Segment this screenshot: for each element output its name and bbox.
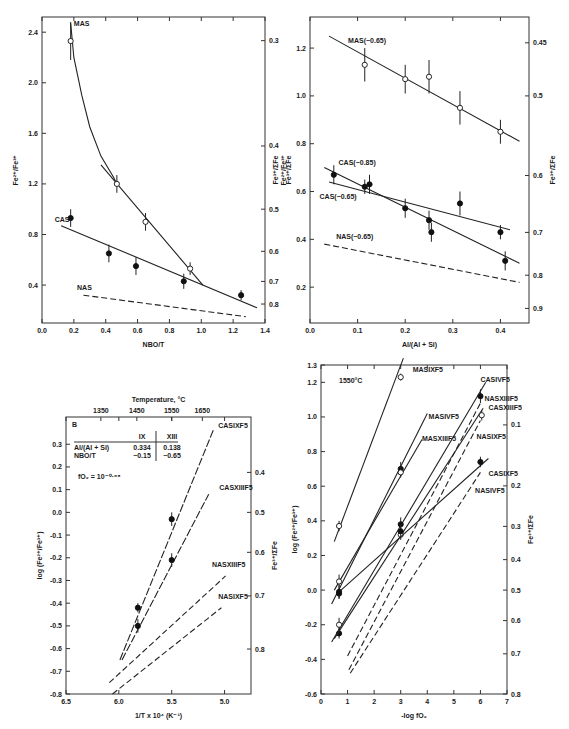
x-tick-label: 3	[399, 698, 403, 705]
data-point	[143, 219, 148, 224]
x-tick-label: 5.0	[220, 698, 230, 705]
series-label: NASIVF5	[475, 487, 505, 494]
x-tick-label: 5.5	[167, 698, 177, 705]
plot-frame	[310, 17, 529, 323]
panel-b: 0.00.10.20.30.40.20.40.60.81.01.20.450.5…	[272, 17, 556, 349]
x-tick-label: 1	[346, 698, 350, 705]
y-axis-label: Fe²⁺/Fe³⁺	[12, 155, 19, 186]
data-point	[336, 589, 341, 594]
data-point	[498, 129, 503, 134]
y-right-tick-label: 0.4	[511, 556, 521, 563]
series-label: CASIXF5	[488, 470, 518, 477]
annotation: 1550°C	[339, 377, 362, 384]
panel-d: 01234567-0.6-0.4-0.20.00.20.40.60.81.01.…	[291, 358, 534, 720]
data-point	[479, 413, 484, 418]
series-label: NASIXF5	[476, 433, 506, 440]
y-right-tick-label: 0.4	[255, 469, 265, 476]
data-point	[336, 622, 341, 627]
top-tick-label: 1350	[93, 407, 109, 414]
y-right-tick-label: 0.7	[511, 650, 521, 657]
x-tick-label: 1.0	[196, 327, 206, 334]
y-right-tick-label: 0.8	[255, 646, 265, 653]
x-axis-label: Al/(Al + Si)	[402, 341, 437, 349]
y-tick-label: 0.4	[28, 282, 38, 289]
y-tick-label: 1.2	[296, 45, 306, 52]
data-point	[68, 38, 73, 43]
series-label: CASIXF5	[218, 422, 248, 429]
y-tick-label: 0.2	[52, 463, 62, 470]
series-casxiiif5: CASXIIIF5	[122, 484, 253, 660]
inset-table-cell: Al/(Al + Si)	[74, 444, 109, 452]
data-point	[403, 206, 408, 211]
y-tick-label: 0.0	[307, 587, 317, 594]
x-tick-label: 0.2	[400, 327, 410, 334]
y-right-tick-label: 0.8	[269, 301, 279, 308]
data-point	[135, 623, 140, 628]
y-tick-label: -0.6	[50, 645, 62, 652]
y-right-axis-label: Fe³⁺/ΣFe	[527, 515, 534, 544]
data-point	[503, 258, 508, 263]
y-tick-label: 0.4	[296, 236, 306, 243]
data-point	[362, 62, 367, 67]
series-label: MAS(~0.65)	[348, 37, 386, 45]
x-tick-label: 0.2	[69, 327, 79, 334]
x-tick-label: 6.5	[61, 698, 71, 705]
data-point	[114, 181, 119, 186]
panel-letter: B	[72, 421, 77, 428]
x-tick-label: 0.0	[37, 327, 47, 334]
y-tick-label: 1.0	[296, 92, 306, 99]
y-right-tick-label: 0.8	[533, 272, 543, 279]
y-right-tick-label: 0.5	[511, 587, 521, 594]
data-point	[336, 523, 341, 528]
top-tick-label: 1450	[129, 407, 145, 414]
series-label: MASIXF5	[413, 366, 443, 373]
y-tick-label: 2.4	[28, 29, 38, 36]
y-tick-label: -0.1	[50, 532, 62, 539]
data-point	[457, 201, 462, 206]
data-point	[133, 263, 138, 268]
series-mas-0-65-: MAS(~0.65)	[329, 36, 519, 144]
series-nas-0-65-: NAS(~0.65)	[324, 233, 519, 282]
series-label: NAS	[77, 284, 92, 291]
data-point	[403, 77, 408, 82]
x-tick-label: 5	[452, 698, 456, 705]
panel-a: 0.00.20.40.60.81.01.21.40.40.81.21.62.02…	[12, 17, 292, 348]
inset-table-cell: ~0.65	[163, 452, 181, 459]
series-label: CASIVF5	[480, 376, 510, 383]
x-tick-label: 2	[372, 698, 376, 705]
y-tick-label: 1.0	[307, 413, 317, 420]
inset-table-cell: 0.138	[163, 444, 181, 451]
data-point	[398, 375, 403, 380]
x-tick-label: 1.4	[260, 327, 270, 334]
y-tick-label: 1.3	[307, 362, 317, 369]
y-right-tick-label: 0.1	[511, 421, 521, 428]
y-right-tick-label: 0.7	[269, 278, 279, 285]
data-point	[135, 605, 140, 610]
x-tick-label: 0.4	[496, 327, 506, 334]
x-tick-label: 6	[478, 698, 482, 705]
inset-table-cell: ~0.15	[133, 452, 151, 459]
y-tick-label: 1.2	[28, 180, 38, 187]
y-axis-label-secondary: Fe³⁺/ΣFe	[272, 155, 279, 184]
y-tick-label: 1.2	[307, 379, 317, 386]
x-axis-label: NBO/T	[143, 341, 166, 348]
data-point	[429, 230, 434, 235]
inset-table-header: IX	[139, 433, 146, 440]
x-tick-label: 1.2	[228, 327, 238, 334]
y-tick-label: 0.8	[28, 231, 38, 238]
x-tick-label: 0.1	[353, 327, 363, 334]
x-axis-label: 1/T x 10⁴ (K⁻¹)	[135, 712, 182, 720]
series-nasxiiif5: NASXIIIF5	[109, 561, 245, 683]
top-axis-label: Temperature, °C	[132, 396, 186, 404]
y-tick-label: 2.0	[28, 79, 38, 86]
data-point	[169, 517, 174, 522]
y-tick-label: 0.3	[52, 441, 62, 448]
series-label: NASIXF5	[218, 593, 248, 600]
y-tick-label: -0.6	[305, 691, 317, 698]
series-label: NASXIIIF5	[484, 395, 518, 402]
series-label: NAS(~0.65)	[336, 233, 373, 241]
x-axis-label: -log fO₂	[401, 712, 427, 720]
y-right-tick-label: 0.7	[533, 229, 543, 236]
series-label: CAS(~0.65)	[320, 193, 357, 201]
y-tick-label: 0.8	[296, 140, 306, 147]
